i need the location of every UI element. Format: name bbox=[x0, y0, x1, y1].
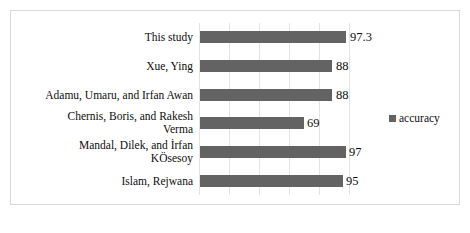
bar-value-label: 97.3 bbox=[350, 30, 372, 44]
bar-row: Mandal, Dilek, and İrfan KÖsesoy 97 bbox=[11, 138, 461, 167]
category-label: Islam, Rejwana bbox=[7, 174, 193, 187]
bar-row: Xue, Ying 88 bbox=[11, 52, 461, 81]
bar-accuracy[interactable] bbox=[200, 146, 346, 158]
bar-value-label: 97 bbox=[349, 145, 362, 159]
bar-row: This study 97.3 bbox=[11, 23, 461, 52]
bar-value-label: 88 bbox=[336, 59, 349, 73]
legend-swatch-icon bbox=[389, 115, 396, 122]
chart-container: This study 97.3 Xue, Ying 88 Adamu, Umar… bbox=[10, 10, 460, 205]
bar-accuracy[interactable] bbox=[200, 60, 332, 72]
category-label: This study bbox=[7, 31, 193, 44]
bar-accuracy[interactable] bbox=[200, 175, 343, 187]
category-label: Mandal, Dilek, and İrfan KÖsesoy bbox=[7, 139, 193, 165]
category-label: Chernis, Boris, and Rakesh Verma bbox=[7, 110, 193, 136]
bar-accuracy[interactable] bbox=[200, 31, 346, 43]
category-label: Adamu, Umaru, and Irfan Awan bbox=[7, 88, 193, 101]
bar-row: Adamu, Umaru, and Irfan Awan 88 bbox=[11, 80, 461, 109]
chart-legend[interactable]: accuracy bbox=[389, 112, 440, 125]
legend-label: accuracy bbox=[399, 112, 440, 125]
bar-value-label: 69 bbox=[307, 116, 320, 130]
bar-row: Islam, Rejwana 95 bbox=[11, 166, 461, 195]
bar-rows: This study 97.3 Xue, Ying 88 Adamu, Umar… bbox=[11, 23, 461, 195]
bar-value-label: 88 bbox=[336, 88, 349, 102]
bar-accuracy[interactable] bbox=[200, 117, 304, 129]
bar-value-label: 95 bbox=[346, 174, 359, 188]
bar-accuracy[interactable] bbox=[200, 89, 332, 101]
category-label: Xue, Ying bbox=[7, 59, 193, 72]
